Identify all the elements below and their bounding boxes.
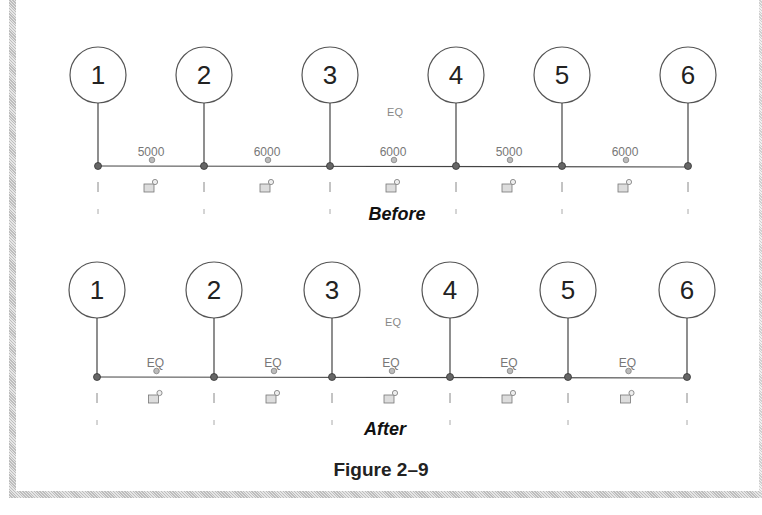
dimension-text[interactable]: EQ <box>382 356 399 370</box>
dimension-lock-icon[interactable] <box>144 179 158 192</box>
dimension-line <box>97 377 687 378</box>
grid-number: 6 <box>681 60 695 90</box>
before-caption: Before <box>368 204 425 225</box>
dimension-text[interactable]: EQ <box>147 356 164 370</box>
grid-number: 5 <box>561 275 575 305</box>
lock-shackle <box>274 390 279 395</box>
grid-line-2[interactable]: 2 <box>176 47 232 214</box>
lock-body <box>149 395 159 403</box>
dimension-lock-icon[interactable] <box>260 179 274 192</box>
lock-body <box>621 395 631 403</box>
lock-body <box>386 184 396 192</box>
overall-eq-label[interactable]: EQ <box>387 106 403 118</box>
witness-dot <box>565 374 572 381</box>
dimension-text[interactable]: 6000 <box>254 145 281 159</box>
lock-shackle <box>629 390 634 395</box>
grid-number: 1 <box>91 60 105 90</box>
lock-shackle <box>157 390 162 395</box>
dimension-text[interactable]: 6000 <box>380 145 407 159</box>
grid-number: 5 <box>555 60 569 90</box>
dimension-lock-icon[interactable] <box>149 390 163 403</box>
witness-dot <box>453 163 460 170</box>
grid-number: 2 <box>197 60 211 90</box>
lock-shackle <box>152 179 157 184</box>
lock-body <box>502 395 512 403</box>
drag-grip-icon <box>507 157 513 163</box>
grid-number: 2 <box>207 275 221 305</box>
drag-grip-icon <box>391 157 397 163</box>
grid-line-3[interactable]: 3 <box>304 262 360 425</box>
after-panel: 123456EQEQEQEQEQEQ <box>69 262 715 425</box>
dimension-text[interactable]: EQ <box>500 356 517 370</box>
dimension-lock-icon[interactable] <box>266 390 280 403</box>
witness-dot <box>95 163 102 170</box>
dimension-lock-icon[interactable] <box>386 179 400 192</box>
lock-body <box>384 395 394 403</box>
lock-shackle <box>510 179 515 184</box>
grid-line-2[interactable]: 2 <box>186 262 242 425</box>
lock-shackle <box>394 179 399 184</box>
grid-line-1[interactable]: 1 <box>69 262 125 425</box>
dimension-lock-icon[interactable] <box>621 390 635 403</box>
drag-grip-icon <box>507 368 513 374</box>
overall-eq-label[interactable]: EQ <box>385 316 401 328</box>
drag-grip-icon <box>271 368 277 374</box>
lock-shackle <box>510 390 515 395</box>
lock-shackle <box>626 179 631 184</box>
dimension-line <box>98 166 688 167</box>
lock-body <box>502 184 512 192</box>
witness-dot <box>684 374 691 381</box>
grid-line-4[interactable]: 4 <box>422 262 478 425</box>
grid-line-1[interactable]: 1 <box>70 47 126 214</box>
witness-dot <box>559 163 566 170</box>
witness-dot <box>329 374 336 381</box>
dimension-lock-icon[interactable] <box>502 179 516 192</box>
grid-number: 4 <box>449 60 463 90</box>
dimension-text[interactable]: 5000 <box>496 145 523 159</box>
witness-dot <box>447 374 454 381</box>
after-caption: After <box>364 419 406 440</box>
dimension-text[interactable]: EQ <box>619 356 636 370</box>
grid-number: 3 <box>325 275 339 305</box>
drag-grip-icon <box>149 157 155 163</box>
grid-line-6[interactable]: 6 <box>659 262 715 425</box>
grid-number: 3 <box>323 60 337 90</box>
dimension-text[interactable]: 6000 <box>612 145 639 159</box>
figure-caption: Figure 2–9 <box>333 459 428 481</box>
lock-shackle <box>392 390 397 395</box>
lock-body <box>266 395 276 403</box>
drag-grip-icon <box>389 368 395 374</box>
before-panel: 12345650006000600050006000EQ <box>70 47 716 214</box>
dimension-lock-icon[interactable] <box>618 179 632 192</box>
grid-line-4[interactable]: 4 <box>428 47 484 214</box>
witness-dot <box>327 163 334 170</box>
witness-dot <box>201 163 208 170</box>
lock-body <box>618 184 628 192</box>
grid-number: 6 <box>680 275 694 305</box>
drag-grip-icon <box>623 157 629 163</box>
drag-grip-icon <box>626 368 632 374</box>
lock-body <box>144 184 154 192</box>
drag-grip-icon <box>154 368 160 374</box>
grid-number: 4 <box>443 275 457 305</box>
dimension-lock-icon[interactable] <box>502 390 516 403</box>
dimension-text[interactable]: EQ <box>264 356 281 370</box>
lock-shackle <box>268 179 273 184</box>
lock-body <box>260 184 270 192</box>
grid-line-3[interactable]: 3 <box>302 47 358 214</box>
grid-number: 1 <box>90 275 104 305</box>
grid-line-6[interactable]: 6 <box>660 47 716 214</box>
witness-dot <box>211 374 218 381</box>
witness-dot <box>94 374 101 381</box>
grid-line-5[interactable]: 5 <box>540 262 596 425</box>
dimension-lock-icon[interactable] <box>384 390 398 403</box>
grid-line-5[interactable]: 5 <box>534 47 590 214</box>
drag-grip-icon <box>265 157 271 163</box>
witness-dot <box>685 163 692 170</box>
dimension-text[interactable]: 5000 <box>138 145 165 159</box>
